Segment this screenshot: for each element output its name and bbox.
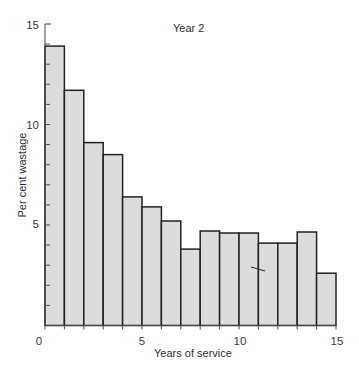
bar-9-10 (220, 233, 239, 326)
bar-12-13 (278, 243, 297, 325)
bar-10-11 (239, 233, 258, 326)
bar-3-4 (103, 155, 122, 326)
y-tick-label-15: 15 (26, 19, 39, 31)
bar-1-2 (64, 90, 83, 325)
y-axis-label: Per cent wastage (16, 133, 28, 218)
y-tick-label-5: 5 (33, 218, 39, 230)
x-tick-label-0: 0 (36, 335, 42, 347)
x-axis-label: Years of service (154, 347, 232, 359)
bar-11-12 (258, 243, 277, 325)
bar-6-7 (161, 221, 180, 326)
bar-14-15 (317, 273, 336, 325)
bar-8-9 (200, 231, 219, 326)
bar-0-1 (45, 46, 64, 325)
chart-title: Year 2 (173, 22, 204, 34)
histogram-chart: Year 2 15 10 5 0 5 10 15 Years of servic… (0, 0, 359, 370)
y-tick-label-10: 10 (26, 119, 39, 131)
bar-5-6 (142, 207, 161, 326)
bar-2-3 (84, 143, 103, 326)
x-tick-label-10: 10 (234, 335, 247, 347)
bar-13-14 (297, 232, 316, 326)
x-tick-label-5: 5 (139, 335, 145, 347)
x-tick-label-15: 15 (331, 335, 344, 347)
bar-4-5 (123, 197, 142, 326)
bars-group (45, 46, 336, 325)
bar-7-8 (181, 249, 200, 325)
